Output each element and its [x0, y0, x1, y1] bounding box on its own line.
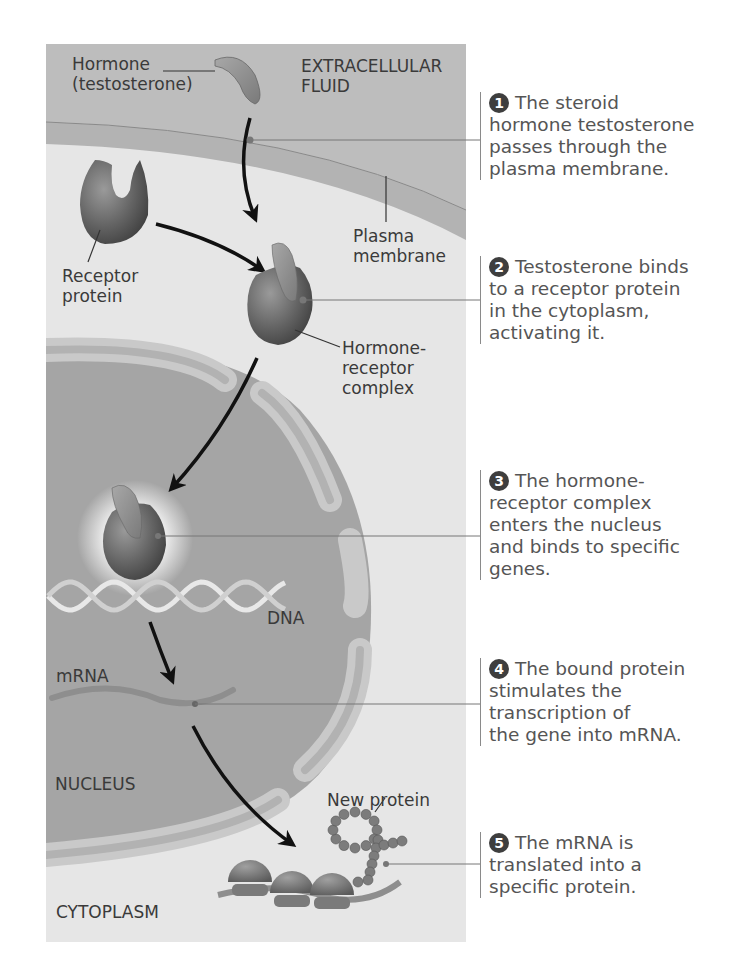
label-receptor-protein: Receptor protein	[62, 266, 138, 306]
step-text: translated into a	[489, 854, 741, 876]
step-text: The bound protein	[515, 658, 685, 679]
amino-acid-bead	[379, 840, 389, 850]
label-mrna: mRNA	[56, 666, 109, 686]
amino-acid-bead	[361, 809, 371, 819]
label-new-protein: New protein	[327, 790, 430, 810]
amino-acid-bead	[339, 841, 349, 851]
step-number-badge: 1	[489, 93, 509, 113]
step-text: The hormone-	[515, 470, 645, 491]
amino-acid-bead	[328, 825, 338, 835]
label-nucleus: NUCLEUS	[55, 774, 135, 794]
step-text: the gene into mRNA.	[489, 724, 741, 746]
step-text: specific protein.	[489, 876, 741, 898]
step-number-badge: 2	[489, 257, 509, 277]
amino-acid-bead	[369, 816, 379, 826]
step-text: and binds to specific	[489, 536, 741, 558]
amino-acid-bead	[353, 877, 363, 887]
label-plasma-membrane: Plasma membrane	[353, 226, 446, 266]
label-extracellular-fluid: EXTRACELLULAR FLUID	[301, 56, 442, 96]
step-text: transcription of	[489, 702, 741, 724]
step-2: 2Testosterone binds to a receptor protei…	[480, 256, 741, 344]
label-cytoplasm: CYTOPLASM	[56, 902, 159, 922]
amino-acid-bead	[372, 825, 382, 835]
step-1: 1The steroid hormone testosterone passes…	[480, 92, 741, 180]
step-text: enters the nucleus	[489, 514, 741, 536]
label-hormone-receptor-complex: Hormone- receptor complex	[342, 338, 426, 398]
step-text: Testosterone binds	[515, 256, 689, 277]
amino-acid-bead	[350, 843, 360, 853]
step-text: activating it.	[489, 322, 741, 344]
ribosome-small-subunit	[274, 895, 310, 907]
step-text: hormone testosterone	[489, 114, 741, 136]
amino-acid-bead	[361, 841, 371, 851]
step-3: 3The hormone- receptor complex enters th…	[480, 470, 741, 580]
amino-acid-bead	[397, 836, 407, 846]
step-text: receptor complex	[489, 492, 741, 514]
step-number-badge: 5	[489, 833, 509, 853]
amino-acid-bead	[331, 834, 341, 844]
step-text: to a receptor protein	[489, 278, 741, 300]
step-4: 4The bound protein stimulates the transc…	[480, 658, 741, 746]
step-text: The mRNA is	[515, 832, 633, 853]
step-number-badge: 3	[489, 471, 509, 491]
step-text: stimulates the	[489, 680, 741, 702]
label-hormone: Hormone (testosterone)	[72, 54, 193, 94]
step-text: plasma membrane.	[489, 158, 741, 180]
step-text: The steroid	[515, 92, 619, 113]
amino-acid-bead	[339, 809, 349, 819]
step-text: passes through the	[489, 136, 741, 158]
step-number-badge: 4	[489, 659, 509, 679]
amino-acid-bead	[331, 816, 341, 826]
amino-acid-bead	[388, 838, 398, 848]
ribosome-small-subunit	[314, 897, 350, 909]
label-dna: DNA	[267, 608, 304, 628]
step-text: in the cytoplasm,	[489, 300, 741, 322]
ribosome-small-subunit	[232, 884, 268, 896]
step-5: 5The mRNA is translated into a specific …	[480, 832, 741, 898]
amino-acid-bead	[363, 875, 373, 885]
step-text: genes.	[489, 558, 741, 580]
